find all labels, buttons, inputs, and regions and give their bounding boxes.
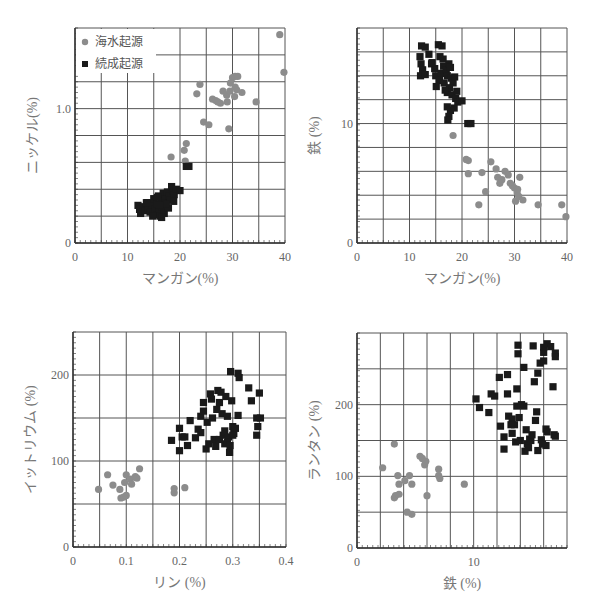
data-point [406, 472, 413, 479]
x-axis-title: マンガン(%) [142, 271, 219, 287]
data-point [104, 471, 111, 478]
y-tick-label: 100 [335, 469, 353, 483]
x-tick-label: 30 [227, 250, 239, 264]
y-tick-label: 0 [347, 541, 353, 555]
data-point [539, 440, 546, 447]
data-point [176, 447, 183, 454]
data-point [422, 44, 429, 51]
legend: 海水起源続成起源 [76, 29, 156, 73]
data-point [493, 165, 500, 172]
chart-iron-vs-manganese: 010203040010マンガン(%)鉄 (%) [295, 0, 589, 300]
x-axis-title: リン (%) [153, 575, 206, 591]
data-point [505, 171, 512, 178]
data-point [516, 174, 523, 181]
y-tick-label: 200 [51, 368, 69, 382]
data-point [558, 201, 565, 208]
x-tick-label: 20 [174, 250, 186, 264]
data-point [562, 213, 569, 220]
data-point [498, 176, 505, 183]
data-point [231, 93, 238, 100]
data-point [123, 492, 130, 499]
data-point [133, 475, 140, 482]
data-point [394, 472, 401, 479]
data-point [465, 170, 472, 177]
data-point [520, 403, 527, 410]
x-tick-label: 0.1 [119, 554, 134, 568]
data-point [236, 374, 243, 381]
data-point [226, 442, 233, 449]
data-point [95, 486, 102, 493]
data-point [534, 447, 541, 454]
y-axis-title: 鉄 (%) [307, 116, 323, 155]
data-point [408, 481, 415, 488]
y-tick-label: 0 [63, 540, 69, 554]
legend-square-icon [82, 61, 88, 67]
data-point [254, 423, 261, 430]
data-point [422, 458, 429, 465]
data-point [449, 132, 456, 139]
data-point [224, 98, 231, 105]
data-point [485, 409, 492, 416]
data-point [226, 88, 233, 95]
legend-circle-icon [82, 39, 88, 45]
data-point [181, 147, 188, 154]
x-tick-label: 0.3 [225, 554, 240, 568]
data-point [467, 120, 474, 127]
data-point [232, 425, 239, 432]
axes: 0100100200鉄 (%)ランタン (%) [307, 333, 567, 592]
data-point [476, 404, 483, 411]
grid [357, 333, 567, 548]
data-point [248, 397, 255, 404]
data-point [143, 199, 150, 206]
data-point [167, 153, 174, 160]
data-point [176, 187, 183, 194]
x-axis-title: 鉄 (%) [443, 576, 482, 592]
data-point [442, 87, 449, 94]
y-tick-label: 200 [335, 398, 353, 412]
x-tick-label: 30 [509, 250, 521, 264]
data-point [423, 492, 430, 499]
series-diagenetic [472, 340, 559, 455]
data-point [444, 116, 451, 123]
data-point [520, 364, 527, 371]
data-point [208, 395, 215, 402]
data-point [500, 433, 507, 440]
data-point [504, 390, 511, 397]
data-point [416, 53, 423, 60]
data-point [379, 464, 386, 471]
data-point [514, 350, 521, 357]
data-point [461, 481, 468, 488]
data-point [391, 440, 398, 447]
data-point [229, 432, 236, 439]
data-point [447, 64, 454, 71]
data-point [185, 163, 192, 170]
data-point [509, 430, 516, 437]
y-axis-title: イットリウム (%) [23, 385, 39, 494]
data-point [216, 436, 223, 443]
axes: 01020304001.0マンガン(%)ニッケル(%) [25, 28, 291, 287]
data-point [245, 384, 252, 391]
data-point [170, 198, 177, 205]
series-seawater [95, 465, 188, 501]
data-point [181, 484, 188, 491]
data-point [496, 374, 503, 381]
x-tick-label: 10 [404, 250, 416, 264]
legend-label: 海水起源 [95, 34, 143, 49]
data-point [453, 88, 460, 95]
data-point [200, 408, 207, 415]
data-point [540, 357, 547, 364]
x-tick-label: 20 [456, 250, 468, 264]
data-point [500, 446, 507, 453]
x-tick-label: 10 [468, 555, 480, 569]
data-point [109, 481, 116, 488]
x-axis-title: マンガン(%) [424, 271, 501, 287]
data-point [549, 383, 556, 390]
data-point [216, 399, 223, 406]
x-tick-label: 10 [122, 250, 134, 264]
data-point [128, 481, 135, 488]
data-point [497, 423, 504, 430]
series-diagenetic [134, 163, 192, 221]
x-tick-label: 0 [354, 555, 360, 569]
data-point [181, 433, 188, 440]
data-point [504, 371, 511, 378]
